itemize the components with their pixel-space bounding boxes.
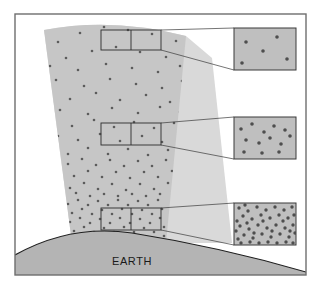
cone-density-diagram: EARTH [0,0,322,287]
inset-top[interactable] [234,28,296,70]
earth-label: EARTH [112,255,152,267]
inset-bottom[interactable] [234,203,297,245]
figure-root: EARTH [0,0,322,287]
inset-middle[interactable] [234,117,296,159]
